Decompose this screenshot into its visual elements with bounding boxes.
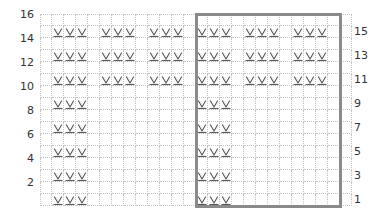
grid-cell [52,182,64,194]
grid-cell [244,194,256,206]
grid-cell [184,50,196,62]
slip-stitch-wyif-icon [220,194,232,206]
slip-stitch-wyif-icon [244,50,256,62]
grid-cell [328,146,340,158]
grid-cell [280,62,292,74]
row-label-left: 16 [14,9,34,21]
grid-cell [256,38,268,50]
grid-cell [184,194,196,206]
grid-cell [256,86,268,98]
grid-cell [100,110,112,122]
slip-stitch-wyif-icon [316,50,328,62]
grid-cell [304,86,316,98]
grid-cell [328,194,340,206]
grid-cell [268,182,280,194]
grid-cell [184,182,196,194]
grid-cell [64,62,76,74]
grid-cell [220,158,232,170]
grid-cell [220,14,232,26]
grid-cell [112,14,124,26]
row-label-right: 13 [354,50,378,62]
grid-cell [88,170,100,182]
grid-cell [172,14,184,26]
grid-cell [304,170,316,182]
grid-cell [88,98,100,110]
grid-cell [280,14,292,26]
grid-cell [232,38,244,50]
grid-cell [184,110,196,122]
grid-cell [112,170,124,182]
grid-cell [52,86,64,98]
grid-cell [316,86,328,98]
grid-cell [40,134,52,146]
grid-cell [148,170,160,182]
grid-cell [40,98,52,110]
grid-cell [280,38,292,50]
grid-cell [160,158,172,170]
grid-cell [124,194,136,206]
grid-cell [340,110,352,122]
grid-cell [40,146,52,158]
grid-cell [172,38,184,50]
grid-cell [316,110,328,122]
slip-stitch-wyif-icon [160,74,172,86]
row-label-left: 8 [14,105,34,117]
grid-cell [256,182,268,194]
grid-cell [136,14,148,26]
grid-cell [304,98,316,110]
slip-stitch-wyif-icon [316,74,328,86]
grid-cell [76,110,88,122]
grid-cell [304,134,316,146]
grid-cell [136,158,148,170]
grid-cell [124,146,136,158]
slip-stitch-wyif-icon [256,26,268,38]
grid-cell [220,62,232,74]
grid-cell [304,158,316,170]
grid-cell [88,14,100,26]
grid-cell [184,14,196,26]
grid-cell [136,74,148,86]
slip-stitch-wyif-icon [76,98,88,110]
grid-cell [76,38,88,50]
grid-cell [304,62,316,74]
grid-cell [280,74,292,86]
grid-cell [88,86,100,98]
grid-cell [244,98,256,110]
grid-cell [340,14,352,26]
grid-cell [76,158,88,170]
grid-cell [100,194,112,206]
grid-cell [244,38,256,50]
grid-cell [292,110,304,122]
slip-stitch-wyif-icon [52,74,64,86]
grid-cell [52,14,64,26]
grid-cell [220,38,232,50]
grid-cell [76,134,88,146]
grid-cell [232,62,244,74]
grid-cell [100,62,112,74]
slip-stitch-wyif-icon [52,26,64,38]
grid-cell [40,50,52,62]
grid-cell [304,146,316,158]
grid-cell [280,182,292,194]
slip-stitch-wyif-icon [52,194,64,206]
grid-cell [148,62,160,74]
slip-stitch-wyif-icon [208,74,220,86]
grid-cell [40,38,52,50]
grid-cell [244,158,256,170]
grid-cell [40,194,52,206]
slip-stitch-wyif-icon [244,74,256,86]
grid-cell [136,98,148,110]
grid-cell [196,134,208,146]
grid-cell [64,38,76,50]
grid-cell [340,62,352,74]
grid-cell [160,86,172,98]
slip-stitch-wyif-icon [52,98,64,110]
grid-cell [328,50,340,62]
grid-cell [40,62,52,74]
grid-cell [244,170,256,182]
slip-stitch-wyif-icon [52,170,64,182]
grid-cell [292,146,304,158]
grid-cell [64,158,76,170]
grid-cell [256,122,268,134]
grid-cell [184,122,196,134]
